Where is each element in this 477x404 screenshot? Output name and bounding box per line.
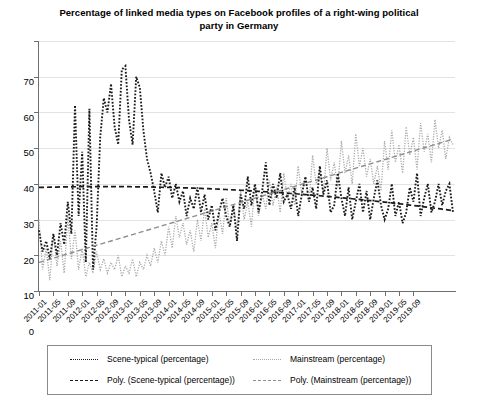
chart-container: Percentage of linked media types on Face…: [0, 0, 477, 404]
legend-item[interactable]: Scene-typical (percentage): [70, 349, 209, 369]
trendline-mainstream: [39, 139, 453, 262]
legend-swatch-dashed-icon: [70, 380, 98, 381]
series-line-scene-typical: [39, 66, 453, 270]
legend-label: Poly. (Scene-typical (percentage)): [107, 375, 235, 385]
data-series-layer: [0, 0, 477, 404]
legend-label: Poly. (Mainstream (percentage)): [290, 375, 411, 385]
legend-swatch-dashed-icon: [253, 380, 281, 381]
legend-item[interactable]: Mainstream (percentage): [253, 349, 385, 369]
chart-legend: Scene-typical (percentage)Mainstream (pe…: [47, 345, 432, 395]
legend-swatch-dotted-icon: [70, 359, 98, 360]
legend-swatch-dotted-icon: [253, 359, 281, 360]
legend-label: Mainstream (percentage): [290, 354, 385, 364]
legend-label: Scene-typical (percentage): [107, 354, 209, 364]
legend-item[interactable]: Poly. (Mainstream (percentage)): [253, 370, 411, 390]
legend-item[interactable]: Poly. (Scene-typical (percentage)): [70, 370, 235, 390]
